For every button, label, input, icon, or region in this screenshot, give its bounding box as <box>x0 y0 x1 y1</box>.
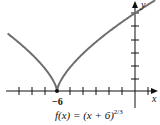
y-axis-label: y <box>141 0 145 10</box>
caption-exponent: 2/3 <box>114 108 123 116</box>
caption-text: f(x) = (x + 6) <box>55 109 114 121</box>
function-caption: f(x) = (x + 6)2/3 <box>55 108 123 121</box>
x-axis-label: x <box>152 93 156 104</box>
x-tick-label: −6 <box>52 96 63 107</box>
cusp-point <box>55 89 59 93</box>
plot <box>0 0 160 125</box>
y-arrow-icon <box>132 1 138 8</box>
function-curve <box>8 0 156 91</box>
